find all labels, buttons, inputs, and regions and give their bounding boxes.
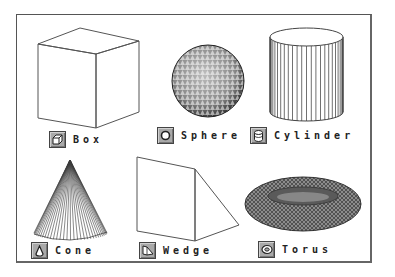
torus-label: Torus (282, 244, 332, 255)
sphere-icon[interactable] (157, 127, 174, 144)
wedge-icon[interactable] (139, 242, 156, 259)
wedge-label: Wedge (163, 245, 213, 256)
sphere-tool[interactable]: Sphere (157, 127, 241, 144)
box-preview[interactable] (38, 28, 139, 128)
cone-preview[interactable] (34, 160, 107, 240)
torus-icon[interactable] (258, 241, 275, 258)
sphere-preview[interactable] (172, 45, 244, 117)
cylinder-label: Cylinder (274, 130, 354, 141)
cylinder-icon[interactable] (250, 127, 267, 144)
cone-icon[interactable] (31, 242, 48, 259)
wedge-tool[interactable]: Wedge (139, 242, 213, 259)
torus-preview[interactable] (245, 177, 361, 231)
wedge-preview[interactable] (137, 157, 239, 241)
box-icon[interactable] (49, 131, 66, 148)
cylinder-preview[interactable] (270, 28, 343, 121)
cone-label: Cone (55, 245, 95, 256)
torus-tool[interactable]: Torus (258, 241, 332, 258)
box-label: Box (73, 134, 103, 145)
cone-tool[interactable]: Cone (31, 242, 95, 259)
sphere-label: Sphere (181, 130, 241, 141)
box-tool[interactable]: Box (49, 131, 103, 148)
cylinder-tool[interactable]: Cylinder (250, 127, 354, 144)
